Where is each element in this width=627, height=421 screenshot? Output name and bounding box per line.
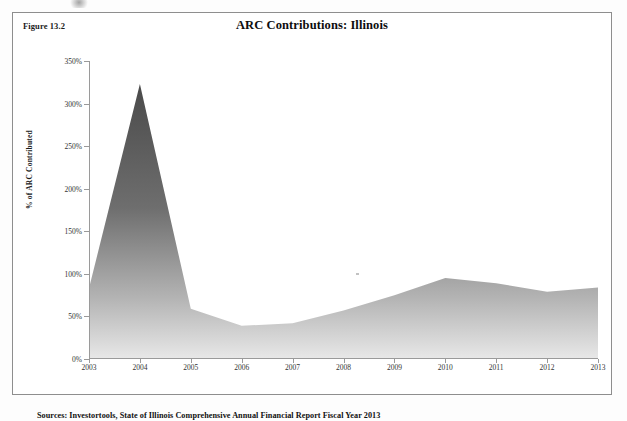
x-tick-label: 2010 [438,363,453,372]
y-tick-label: 50% [68,312,82,321]
x-tick-label: 2007 [285,363,300,372]
y-tick [84,274,89,275]
x-tick-label: 2008 [336,363,351,372]
x-tick-label: 2011 [489,363,504,372]
chart-title: ARC Contributions: Illinois [13,18,611,33]
y-tick [84,104,89,105]
scan-speck [356,273,359,275]
x-tick-label: 2013 [591,363,606,372]
x-tick-label: 2004 [132,363,147,372]
y-axis-line [89,61,90,359]
y-tick-label: 0% [72,355,82,364]
y-tick-label: 200% [65,184,83,193]
x-tick-label: 2006 [234,363,249,372]
x-tick-label: 2003 [82,363,97,372]
y-tick [84,146,89,147]
x-tick-label: 2009 [387,363,402,372]
y-tick [84,189,89,190]
source-note: Sources: Investortools, State of Illinoi… [37,411,380,420]
x-tick-label: 2012 [540,363,555,372]
y-tick-label: 150% [65,227,83,236]
y-tick [84,316,89,317]
y-tick-label: 350% [65,57,83,66]
scan-artifact [70,0,88,8]
y-tick-label: 100% [65,269,83,278]
y-tick [84,61,89,62]
area-series [89,61,598,359]
y-tick-label: 250% [65,142,83,151]
y-tick [84,231,89,232]
x-tick-label: 2005 [183,363,198,372]
figure-frame: Figure 13.2 ARC Contributions: Illinois … [12,12,612,395]
y-axis-title: % of ARC Contributed [25,110,34,230]
plot-area: 0%50%100%150%200%250%300%350% 2003200420… [89,61,598,359]
y-tick-label: 300% [65,99,83,108]
